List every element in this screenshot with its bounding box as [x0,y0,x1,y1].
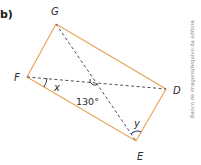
image-credit: Banco de imagens/Arquivo da editora [189,20,196,118]
rectangle-gdef [27,24,166,141]
angle-label-y: y [133,118,141,129]
diagonal-ge [56,24,136,141]
item-label: b) [0,8,13,21]
vertex-label-f: F [14,72,20,83]
vertex-label-d: D [173,85,181,96]
vertex-label-e: E [137,151,144,162]
vertex-label-g: G [51,6,59,17]
angle-x-arc [44,78,47,87]
angle-y-arc [131,131,141,134]
angle-label-x: x [53,82,60,93]
geometry-figure: b) G F D E x y 130° Banco de imagens/Arq… [0,0,201,165]
angle-label-center: 130° [76,96,99,107]
